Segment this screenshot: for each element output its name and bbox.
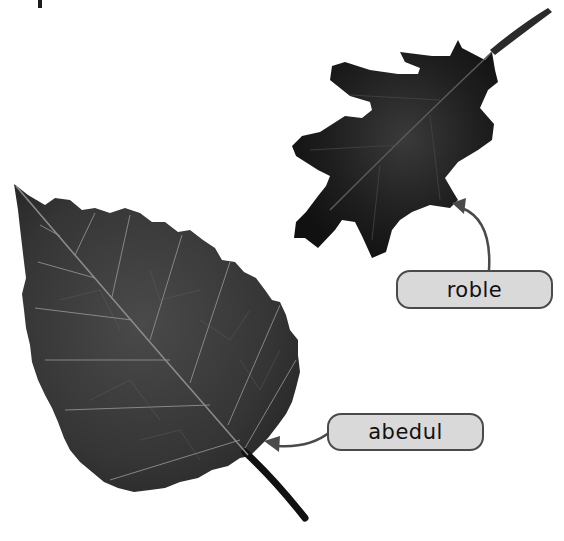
- arrow-abedul: [264, 432, 330, 452]
- oak-leaf-image: [292, 8, 552, 258]
- arrow-roble: [452, 198, 489, 270]
- label-abedul: abedul: [327, 413, 484, 451]
- label-roble-text: roble: [447, 278, 503, 302]
- label-abedul-text: abedul: [368, 420, 443, 444]
- leaf-diagram: roble abedul: [0, 0, 564, 541]
- label-roble: roble: [396, 270, 553, 309]
- birch-leaf-image: [14, 184, 305, 518]
